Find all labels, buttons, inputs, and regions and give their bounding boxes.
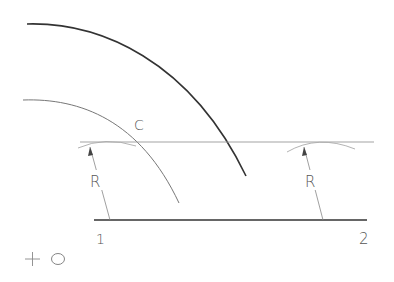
radius-label-right: R: [305, 173, 315, 191]
geometric-construction-diagram: C R R 1 2: [0, 0, 394, 282]
arc-label-c: C: [134, 117, 144, 133]
left-radius-arrowhead: [88, 147, 93, 156]
radius-label-left: R: [90, 173, 100, 191]
right-radius-arrowhead: [302, 147, 307, 156]
center-label-o: [52, 254, 65, 265]
right-construction-arc: [287, 142, 355, 152]
point-label-1: 1: [96, 231, 105, 247]
point-label-2: 2: [359, 230, 369, 248]
large-arc: [27, 24, 246, 176]
